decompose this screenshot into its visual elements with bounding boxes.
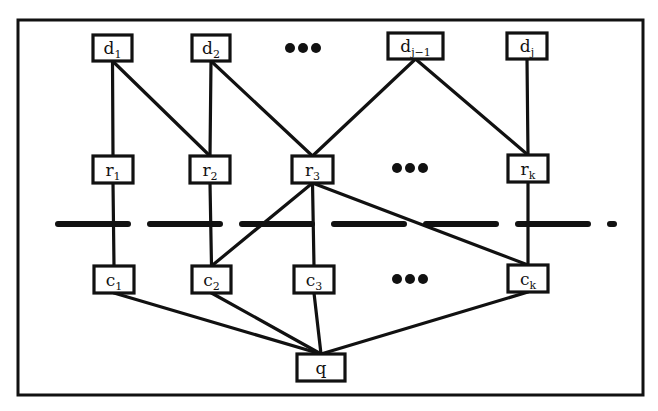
ellipsis-dot-icon bbox=[285, 43, 295, 53]
node-label-subscript: k bbox=[529, 169, 536, 182]
edge-d2-r2 bbox=[210, 61, 211, 156]
edge-d_i-r_k bbox=[527, 59, 528, 155]
node-group: d1d2dj−1djr1r2r3rkc1c2c3ckq bbox=[93, 33, 548, 381]
node-label-subscript: 2 bbox=[213, 48, 220, 61]
edge-group bbox=[113, 59, 529, 354]
edge-d2-r3 bbox=[211, 61, 313, 156]
ellipsis-dot-icon bbox=[392, 163, 402, 173]
diagram-canvas: d1d2dj−1djr1r2r3rkc1c2c3ckq bbox=[0, 0, 658, 411]
node-label-subscript: 2 bbox=[211, 170, 218, 183]
node-d2: d2 bbox=[192, 35, 230, 61]
node-label-subscript: j−1 bbox=[409, 46, 431, 59]
ellipsis-dot-icon bbox=[418, 274, 428, 284]
node-r1: r1 bbox=[93, 156, 133, 183]
ellipsis-dot-icon bbox=[392, 274, 402, 284]
node-label-subscript: 1 bbox=[114, 48, 121, 61]
edge-d_i-1-r_k bbox=[416, 59, 529, 155]
node-q: q bbox=[297, 354, 345, 381]
node-label-base: d bbox=[520, 36, 531, 56]
ellipsis-dot-icon bbox=[418, 163, 428, 173]
edge-d1-r2 bbox=[113, 61, 211, 156]
ellipsis-c-row bbox=[392, 274, 428, 284]
edge-d_i-1-r3 bbox=[313, 59, 416, 156]
ellipsis-dot-icon bbox=[298, 43, 308, 53]
node-label-subscript: 1 bbox=[114, 170, 121, 183]
node-label-base: d bbox=[202, 38, 213, 58]
edge-r1-c1 bbox=[113, 183, 114, 266]
node-d_i: dj bbox=[507, 33, 547, 59]
edge-c2-q bbox=[212, 293, 322, 354]
node-c1: c1 bbox=[94, 266, 134, 293]
node-c_k: ck bbox=[508, 265, 548, 292]
node-label-subscript: 1 bbox=[115, 280, 122, 293]
node-r_k: rk bbox=[508, 155, 548, 182]
node-d_i-1: dj−1 bbox=[388, 33, 443, 59]
node-c3: c3 bbox=[294, 266, 334, 293]
node-label-base: q bbox=[316, 358, 327, 378]
ellipsis-r-row bbox=[392, 163, 428, 173]
node-label-base: c bbox=[520, 269, 530, 289]
ellipsis-d-row bbox=[285, 43, 321, 53]
edge-c3-q bbox=[314, 293, 321, 354]
node-label-subscript: 3 bbox=[315, 280, 322, 293]
ellipsis-dot-icon bbox=[405, 274, 415, 284]
edge-r3-c3 bbox=[313, 183, 315, 266]
node-label-base: c bbox=[106, 270, 116, 290]
node-label-base: c bbox=[306, 270, 316, 290]
node-c2: c2 bbox=[192, 266, 231, 293]
edge-r2-c2 bbox=[210, 183, 212, 266]
edge-d1-r1 bbox=[113, 61, 114, 156]
node-d1: d1 bbox=[93, 35, 132, 61]
node-label-subscript: 2 bbox=[213, 280, 220, 293]
node-label-base: d bbox=[104, 38, 115, 58]
node-label-base: d bbox=[400, 36, 411, 56]
edge-c_k-q bbox=[321, 292, 528, 354]
node-label: q bbox=[316, 358, 327, 378]
node-r3: r3 bbox=[292, 156, 333, 183]
ellipsis-dot-icon bbox=[311, 43, 321, 53]
edge-c1-q bbox=[114, 293, 321, 354]
node-label-subscript: k bbox=[529, 279, 536, 292]
node-label-base: c bbox=[203, 270, 213, 290]
node-label-subscript: 3 bbox=[313, 170, 320, 183]
node-r2: r2 bbox=[190, 156, 230, 183]
ellipsis-dot-icon bbox=[405, 163, 415, 173]
